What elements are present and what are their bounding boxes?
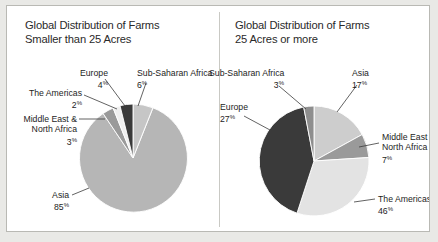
label-asia-right: Asia 17% bbox=[352, 68, 369, 90]
chart-panel-smaller-than-25-acres: Global Distribution of Farms Smaller tha… bbox=[7, 6, 219, 231]
label-the-americas-right-name: The Americas bbox=[378, 194, 430, 204]
label-sub-saharan-africa-right-name: Sub-Saharan Africa bbox=[209, 68, 284, 78]
label-middle-east-north-africa-left: Middle East & North Africa 3% bbox=[6, 114, 77, 147]
label-middle-east-north-africa-right: Middle East & North Africa 7% bbox=[382, 132, 430, 165]
label-sub-saharan-africa-right: Sub-Saharan Africa 3% bbox=[209, 68, 284, 90]
label-sub-saharan-africa-right-value: 3% bbox=[209, 78, 284, 90]
label-mena-right-value: 7% bbox=[382, 153, 430, 165]
label-mena-left-name-line1: Middle East & bbox=[6, 114, 77, 124]
label-europe-right-name: Europe bbox=[220, 102, 248, 112]
label-sub-saharan-africa-left-name: Sub-Saharan Africa bbox=[137, 68, 212, 78]
label-europe-right-value: 27% bbox=[220, 112, 248, 124]
label-mena-left-name-line2: North Africa bbox=[6, 124, 77, 134]
label-the-americas-right: The Americas 46% bbox=[378, 194, 430, 216]
label-the-americas-left-name: The Americas bbox=[7, 88, 82, 98]
label-europe-left: Europe 4% bbox=[32, 68, 108, 90]
label-sub-saharan-africa-left-value: 6% bbox=[137, 78, 212, 90]
label-asia-left-name: Asia bbox=[27, 190, 69, 200]
chart-panel-25-acres-or-more: Global Distribution of Farms 25 Acres or… bbox=[219, 6, 430, 231]
label-asia-right-value: 17% bbox=[352, 78, 369, 90]
label-europe-left-name: Europe bbox=[32, 68, 108, 78]
label-mena-left-value: 3% bbox=[6, 135, 77, 147]
label-asia-right-name: Asia bbox=[352, 68, 369, 78]
figure-panel: Global Distribution of Farms Smaller tha… bbox=[6, 5, 430, 232]
label-the-americas-left: The Americas 2% bbox=[7, 88, 82, 110]
label-the-americas-left-value: 2% bbox=[7, 98, 82, 110]
label-sub-saharan-africa-left: Sub-Saharan Africa 6% bbox=[137, 68, 212, 90]
label-the-americas-right-value: 46% bbox=[378, 204, 430, 216]
label-europe-right: Europe 27% bbox=[220, 102, 248, 124]
label-asia-left-value: 85% bbox=[27, 200, 69, 212]
label-mena-right-name-line1: Middle East & bbox=[382, 132, 430, 142]
label-mena-right-name-line2: North Africa bbox=[382, 142, 430, 152]
label-asia-left: Asia 85% bbox=[27, 190, 69, 212]
